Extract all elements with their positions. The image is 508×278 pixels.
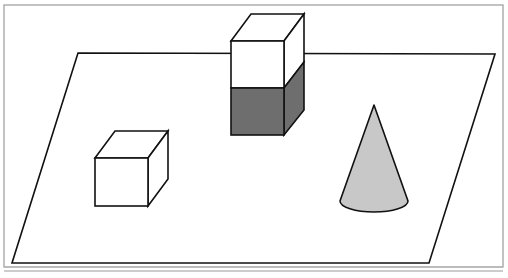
stacked-cubes — [231, 14, 304, 135]
single-cube — [95, 131, 168, 206]
bottom-cube-front-face — [231, 88, 284, 135]
single-cube-front-face — [95, 158, 148, 206]
top-cube-front-face — [231, 41, 284, 88]
diagram-canvas — [0, 0, 508, 278]
